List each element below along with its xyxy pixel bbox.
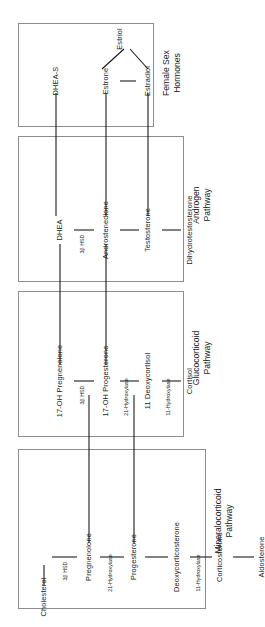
node-cholesterol: Cholesterol (40, 577, 48, 616)
node-progesterone: Progesterone (130, 534, 138, 580)
enzyme-21-hydroxylase-mineralocorticoid: 21-Hydroxylase (108, 554, 114, 592)
label-female-sex-hormones: Female Sex Hormones (161, 50, 182, 96)
enzyme-11-hydroxylase-glucocorticoid: 11-Hydroxylase (166, 378, 172, 415)
node-estrone: Estrone (102, 68, 110, 95)
enzyme-3beta-hsd-glucocorticoid: 3β HSD (80, 386, 86, 405)
node-testosterone: Testosterone (144, 208, 152, 252)
enzyme-3beta-hsd-androgen: 3β HSD (80, 235, 86, 254)
label-mineralocorticoid-pathway: Mineralocorticoid Pathway (213, 489, 234, 554)
box-female-sex-hormones (18, 23, 154, 127)
node-17-oh-progesterone: 17-OH Progesterone (102, 346, 110, 417)
enzyme-21-hydroxylase-glucocorticoid: 21-Hydroxylase (124, 378, 130, 416)
label-androgen-pathway: Androgen Pathway (191, 186, 212, 223)
label-glucocorticoid-pathway: Glucocorticoid Pathway (191, 331, 212, 385)
node-17-oh-pregnenolone: 17-OH Pregnenolone (56, 345, 64, 418)
node-estriol: Estriol (116, 28, 124, 50)
enzyme-11-hydroxylase-mineralocorticoid: 11-Hydroxylase (196, 554, 202, 591)
node-dhea-s: DHEA-S (52, 67, 60, 96)
node-deoxycorticosterone: Deoxycorticosterone (173, 522, 181, 592)
node-androstenedione: Androstenedione (102, 201, 110, 259)
node-11-deoxycortisol: 11 Deoxycortisol (144, 353, 152, 409)
node-dhea: DHEA (56, 219, 64, 240)
node-estradiol: Estradiol (144, 66, 152, 96)
diagram-surface: Cholesterol Pregnenolone Progesterone De… (0, 0, 238, 627)
pathway-diagram-canvas: Cholesterol Pregnenolone Progesterone De… (0, 0, 238, 627)
enzyme-3beta-hsd-mineralocorticoid: 3β HSD (63, 562, 69, 581)
node-pregnenolone: Pregnenolone (85, 533, 93, 581)
diagram-rotation-wrapper: Cholesterol Pregnenolone Progesterone De… (0, 0, 238, 627)
